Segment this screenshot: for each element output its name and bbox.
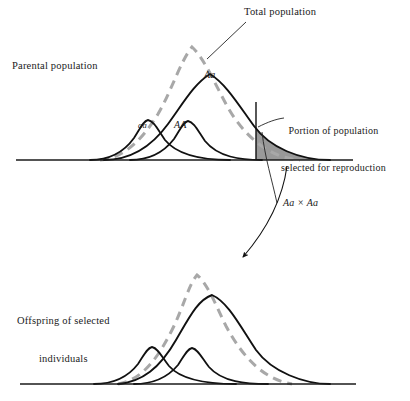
- label-portion-line2: selected for reproduction: [281, 162, 386, 174]
- curve-recessive-aa-offspring: [94, 347, 236, 384]
- curve-heterozygote-Aa-offspring: [118, 295, 330, 384]
- label-total-population: Total population: [244, 6, 316, 19]
- curve-total-population-offspring: [118, 275, 292, 384]
- figure-canvas: Total population Parental population Por…: [0, 0, 410, 401]
- label-offspring-line2: individuals: [17, 353, 110, 366]
- label-offspring-line1: Offspring of selected: [17, 315, 110, 328]
- label-portion-line1: Portion of population: [281, 125, 386, 137]
- label-parental-population: Parental population: [12, 60, 98, 73]
- curve-dominant-AA-offspring: [134, 348, 268, 384]
- label-genotype-recessive: aa: [138, 120, 147, 130]
- label-portion-selected: Portion of population selected for repro…: [281, 101, 386, 199]
- curve-recessive-aa: [90, 120, 230, 160]
- label-genotype-dominant: AA: [174, 119, 187, 131]
- label-offspring-individuals: Offspring of selected individuals: [17, 289, 110, 391]
- label-cross-notation: Aa × Aa: [283, 197, 318, 209]
- leader-total-population: [207, 22, 246, 59]
- label-genotype-heterozygote: Aa: [204, 69, 216, 81]
